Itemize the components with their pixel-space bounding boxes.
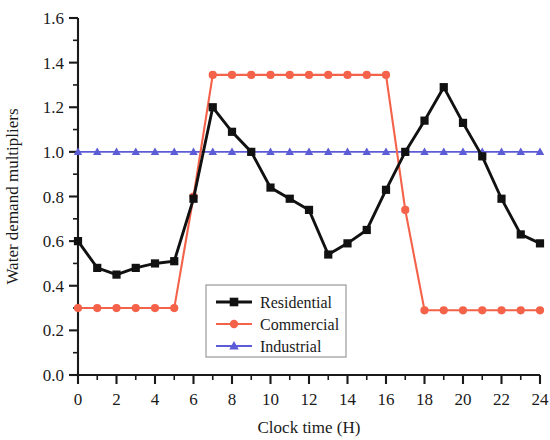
data-point-marker (286, 195, 294, 203)
y-tick-label: 1.4 (43, 54, 65, 73)
data-point-marker (112, 270, 120, 278)
x-tick-label: 2 (112, 390, 121, 409)
data-point-marker (170, 257, 178, 265)
data-point-marker (132, 304, 140, 312)
y-axis-title: Water demand multipliers (3, 108, 22, 284)
data-point-marker (440, 306, 448, 314)
data-point-marker (536, 306, 544, 314)
x-tick-label: 10 (262, 390, 279, 409)
series-line-residential (78, 87, 540, 274)
x-tick-label: 18 (416, 390, 433, 409)
data-point-marker (151, 304, 159, 312)
data-point-marker (247, 71, 255, 79)
x-tick-label: 8 (228, 390, 237, 409)
data-point-marker (112, 304, 120, 312)
data-point-marker (401, 148, 409, 156)
y-tick-label: 0.8 (43, 188, 64, 207)
data-point-marker (324, 71, 332, 79)
y-tick-group: 0.00.20.40.60.81.01.21.41.6 (43, 9, 78, 385)
data-point-marker (343, 71, 351, 79)
data-point-marker (228, 128, 236, 136)
x-tick-label: 12 (301, 390, 318, 409)
series-commercial (74, 71, 544, 315)
chart-figure: 0246810121416182022240.00.20.40.60.81.01… (0, 0, 550, 440)
data-point-marker (497, 195, 505, 203)
data-point-marker (93, 304, 101, 312)
data-point-marker (132, 264, 140, 272)
data-point-marker (74, 237, 82, 245)
data-point-marker (382, 71, 390, 79)
data-point-marker (459, 119, 467, 127)
data-point-marker (170, 304, 178, 312)
data-point-marker (517, 306, 525, 314)
y-tick-label: 1.6 (43, 9, 64, 28)
data-point-marker (343, 239, 351, 247)
series-industrial (74, 147, 545, 155)
y-tick-label: 0.4 (43, 277, 65, 296)
y-tick-label: 1.2 (43, 98, 64, 117)
x-axis-title: Clock time (H) (258, 418, 361, 437)
data-point-marker (478, 306, 486, 314)
x-tick-label: 22 (493, 390, 510, 409)
x-tick-label: 20 (455, 390, 472, 409)
data-point-marker (247, 148, 255, 156)
y-tick-label: 0.2 (43, 321, 64, 340)
x-tick-label: 24 (532, 390, 550, 409)
data-point-marker (189, 195, 197, 203)
data-point-marker (230, 320, 238, 328)
data-point-marker (440, 83, 448, 91)
data-point-marker (459, 306, 467, 314)
x-tick-group: 024681012141618202224 (74, 375, 549, 409)
data-point-marker (266, 71, 274, 79)
series-residential (74, 83, 544, 279)
data-point-marker (363, 226, 371, 234)
data-point-marker (209, 71, 217, 79)
data-point-marker (286, 71, 294, 79)
chart-legend: ResidentialCommercialIndustrial (206, 285, 346, 357)
data-point-marker (478, 152, 486, 160)
series-line-commercial (78, 75, 540, 310)
x-tick-label: 6 (189, 390, 198, 409)
legend-label: Industrial (260, 338, 322, 355)
x-tick-label: 0 (74, 390, 83, 409)
x-tick-label: 16 (378, 390, 395, 409)
data-point-marker (401, 206, 409, 214)
data-point-marker (363, 71, 371, 79)
data-point-marker (228, 71, 236, 79)
data-point-marker (209, 103, 217, 111)
y-tick-label: 0.0 (43, 366, 64, 385)
data-point-marker (305, 206, 313, 214)
data-point-marker (517, 230, 525, 238)
data-point-marker (93, 264, 101, 272)
y-tick-label: 1.0 (43, 143, 64, 162)
data-point-marker (305, 71, 313, 79)
data-point-marker (536, 239, 544, 247)
data-point-marker (420, 117, 428, 125)
data-point-marker (74, 304, 82, 312)
data-point-marker (420, 306, 428, 314)
x-tick-label: 14 (339, 390, 357, 409)
data-point-marker (151, 259, 159, 267)
data-point-marker (324, 250, 332, 258)
legend-label: Residential (260, 294, 333, 311)
data-point-marker (230, 298, 239, 307)
legend-label: Commercial (260, 316, 340, 333)
x-tick-label: 4 (151, 390, 160, 409)
data-point-marker (266, 183, 274, 191)
water-demand-multiplier-line-chart: 0246810121416182022240.00.20.40.60.81.01… (0, 0, 550, 440)
y-tick-label: 0.6 (43, 232, 64, 251)
data-point-marker (382, 186, 390, 194)
data-point-marker (497, 306, 505, 314)
